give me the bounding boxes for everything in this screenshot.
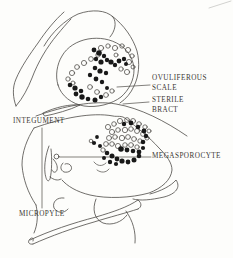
label-integument: INTEGUMENT [13,116,65,126]
label-ovuliferous-scale-line2: SCALE [152,83,207,93]
sterile-bract-sliver [43,105,80,116]
label-megasporocyte: MEGASPOROCYTE [152,151,221,161]
integument-outline [45,146,72,181]
top-hook-outline [44,11,115,46]
ovule-diagram: OVULIFEROUS SCALE STERILE BRACT INTEGUME… [0,0,233,258]
corner-line [209,1,231,8]
leader-sterile-bract [123,102,149,104]
lower-bract-outline [29,200,141,244]
label-ovuliferous-scale-line1: OVULIFEROUS [152,73,207,83]
megasporocyte-circle [54,154,59,159]
upper-left-bract-outline [13,12,71,106]
label-sterile-bract-line1: STERILE [152,95,184,105]
label-ovuliferous-scale: OVULIFEROUS SCALE [152,73,207,93]
label-sterile-bract: STERILE BRACT [152,95,184,115]
bottom-curl-outline [94,199,135,243]
nucellus-squiggles [94,162,109,172]
label-sterile-bract-line2: BRACT [152,105,184,115]
line-art [0,0,233,258]
label-micropyle: MICROPYLE [19,209,65,219]
